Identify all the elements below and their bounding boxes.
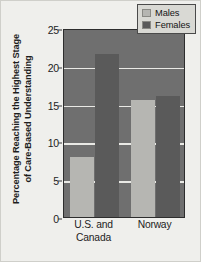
y-axis-title-line1: Percentage Reaching the Highest Stage — [11, 34, 21, 204]
y-tick-label: 5 — [41, 175, 59, 187]
chart-legend: MalesFemales — [137, 4, 196, 34]
chart-figure: Percentage Reaching the Highest Stage of… — [0, 0, 201, 262]
y-axis-title: Percentage Reaching the Highest Stage of… — [5, 15, 39, 223]
legend-label: Males — [155, 8, 179, 18]
legend-item: Males — [142, 8, 190, 18]
y-tick-label: 25 — [41, 24, 59, 36]
x-axis-label: Norway — [115, 219, 194, 232]
y-tick-label: 20 — [41, 62, 59, 74]
legend-swatch-females — [142, 21, 151, 29]
y-tick-mark — [58, 143, 62, 144]
y-axis-title-line2: of Care-Based Understanding — [22, 34, 34, 204]
legend-swatch-males — [142, 9, 151, 17]
y-tick-mark — [58, 181, 62, 182]
legend-label: Females — [155, 20, 190, 30]
x-axis-labels: U.S. andCanadaNorway — [63, 219, 185, 259]
plot-area — [63, 29, 185, 218]
gridline — [64, 68, 184, 69]
y-tick-mark — [58, 67, 62, 68]
x-axis-label-line: Norway — [138, 219, 172, 230]
bar — [156, 96, 180, 217]
y-tick-mark — [58, 105, 62, 106]
bar — [131, 100, 155, 217]
y-tick-label: 10 — [41, 137, 59, 149]
bar — [70, 157, 94, 217]
x-axis-label-line: Canada — [54, 232, 133, 245]
legend-item: Females — [142, 20, 190, 30]
y-tick-label: 15 — [41, 100, 59, 112]
bar — [95, 54, 119, 217]
y-tick-mark — [58, 30, 62, 31]
x-axis-label-line: U.S. and — [74, 219, 112, 230]
